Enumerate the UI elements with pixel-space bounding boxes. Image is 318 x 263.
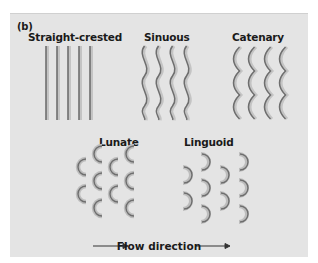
straight-crested-ripples [46, 46, 92, 120]
figure-panel: (b) Straight-crested Sinuous Catenary Lu… [10, 13, 308, 257]
flow-direction-label: Flow direction [10, 240, 308, 252]
ripple-diagram [10, 14, 308, 257]
lunate-ripples [78, 146, 134, 216]
linguoid-ripples [183, 154, 248, 222]
catenary-ripples [234, 47, 288, 119]
sinuous-ripples [142, 46, 190, 120]
